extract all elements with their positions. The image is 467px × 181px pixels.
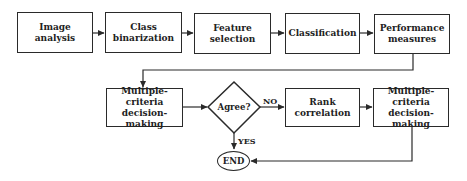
yes-label: YES bbox=[238, 136, 256, 146]
node-label: Feature bbox=[210, 23, 256, 34]
node-label: Multiple-criteria bbox=[107, 86, 182, 108]
node-label: decision-making bbox=[107, 108, 182, 130]
node-label: analysis bbox=[35, 33, 75, 44]
node-label: Multiple-criteria bbox=[374, 86, 448, 108]
node-class-binarization: Classbinarization bbox=[105, 12, 182, 53]
node-label: decision-making bbox=[374, 108, 448, 130]
node-label: correlation bbox=[294, 108, 350, 119]
node-mcdm-1: Multiple-criteriadecision-making bbox=[106, 88, 183, 127]
decision-label: Agree? bbox=[208, 102, 260, 112]
no-label: NO bbox=[263, 96, 277, 106]
node-label: Performance bbox=[380, 23, 445, 34]
node-image-analysis: Imageanalysis bbox=[17, 12, 93, 53]
node-mcdm-2: Multiple-criteriadecision-making bbox=[373, 88, 449, 127]
end-label: END bbox=[223, 156, 245, 166]
node-label: Image bbox=[35, 22, 75, 33]
node-label: binarization bbox=[113, 33, 174, 44]
node-performance-measures: Performancemeasures bbox=[374, 14, 450, 54]
node-label: selection bbox=[210, 34, 256, 45]
node-label: Class bbox=[113, 22, 174, 33]
node-label: Rank bbox=[294, 97, 350, 108]
end-terminal: END bbox=[217, 151, 250, 171]
node-classification: Classification bbox=[285, 13, 360, 54]
node-label: Classification bbox=[289, 28, 357, 39]
node-label: measures bbox=[380, 34, 445, 45]
arrow-performance-to-mcdm bbox=[143, 54, 413, 87]
arrow-mcdm-to-end bbox=[251, 127, 412, 161]
node-rank-correlation: Rankcorrelation bbox=[285, 88, 360, 127]
node-feature-selection: Featureselection bbox=[194, 13, 271, 54]
